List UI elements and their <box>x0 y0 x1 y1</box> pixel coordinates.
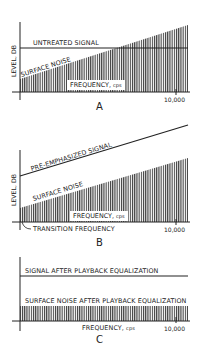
y-axis-label-a: LEVEL, DB <box>11 45 17 77</box>
tick-label-b: 10,000 <box>164 227 185 233</box>
tick-label-a: 10,000 <box>164 97 185 103</box>
x-axis-title-a: FREQUENCY, <box>70 81 111 89</box>
transition-pointer <box>22 222 31 229</box>
y-axis-label-b: LEVEL, DB <box>11 174 17 206</box>
x-axis-unit-a: cps <box>113 82 122 88</box>
x-axis-label-a: FREQUENCY, cps <box>67 80 125 90</box>
x-axis-title-c: FREQUENCY, <box>82 324 124 332</box>
x-axis-label-c: FREQUENCY, cps <box>82 325 135 331</box>
x-axis-label-b: FREQUENCY, cps <box>70 211 128 221</box>
signal-label-a: UNTREATED SIGNAL <box>33 40 99 46</box>
signal-label-c: SIGNAL AFTER PLAYBACK EQUALIZATION <box>25 268 158 274</box>
panel-letter-a: A <box>96 102 103 112</box>
x-axis-unit-b: cps <box>116 213 125 219</box>
tick-label-c: 10,000 <box>164 326 185 332</box>
noise-area-c <box>20 306 188 321</box>
diagram-canvas <box>0 0 200 359</box>
panel-letter-b: B <box>96 238 103 248</box>
x-axis-unit-c: cps <box>126 325 135 331</box>
noise-label-c: SURFACE NOISE AFTER PLAYBACK EQUALIZATIO… <box>25 298 186 304</box>
transition-frequency-label: TRANSITION FREQUENCY <box>33 226 115 232</box>
x-axis-title-b: FREQUENCY, <box>73 212 114 220</box>
panel-letter-c: C <box>96 335 103 345</box>
